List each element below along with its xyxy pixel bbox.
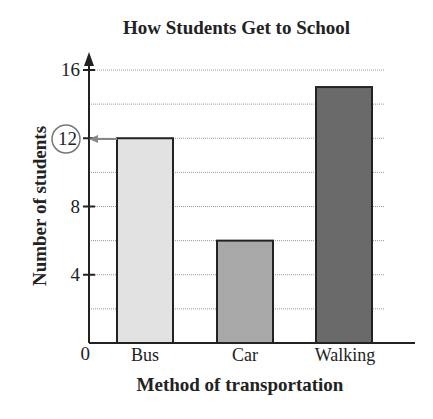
category-bus: Bus [100, 345, 190, 366]
bar-walking [316, 87, 372, 343]
y-tick-4: 4 [50, 264, 80, 286]
bar-bus [117, 138, 173, 343]
y-axis-arrow-icon [84, 52, 94, 66]
category-car: Car [200, 345, 290, 366]
annotation-arrowhead-icon [89, 135, 98, 143]
y-tick-8: 8 [50, 196, 80, 218]
bars [117, 87, 372, 343]
bar-car [217, 241, 273, 343]
y-tick-0: 0 [60, 343, 90, 365]
category-walking: Walking [300, 345, 390, 366]
y-tick-12: 12 [47, 128, 77, 150]
y-tick-16: 16 [50, 59, 80, 81]
